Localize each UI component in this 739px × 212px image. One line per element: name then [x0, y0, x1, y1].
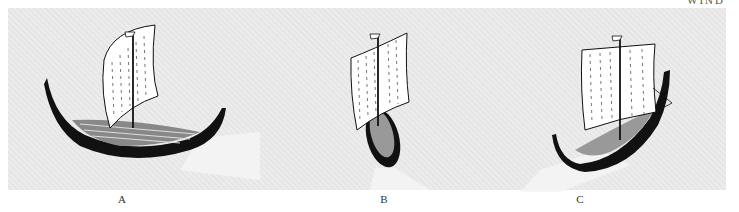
ships-illustration — [0, 0, 739, 212]
ship-b-label: B — [374, 193, 394, 205]
ship-b-wake — [370, 168, 430, 190]
ship-b — [351, 33, 430, 190]
ship-a-label: A — [112, 193, 132, 205]
ship-a — [44, 25, 260, 180]
ship-a-sail — [103, 25, 158, 128]
ship-c-label: C — [570, 193, 590, 205]
ship-c — [520, 36, 672, 192]
